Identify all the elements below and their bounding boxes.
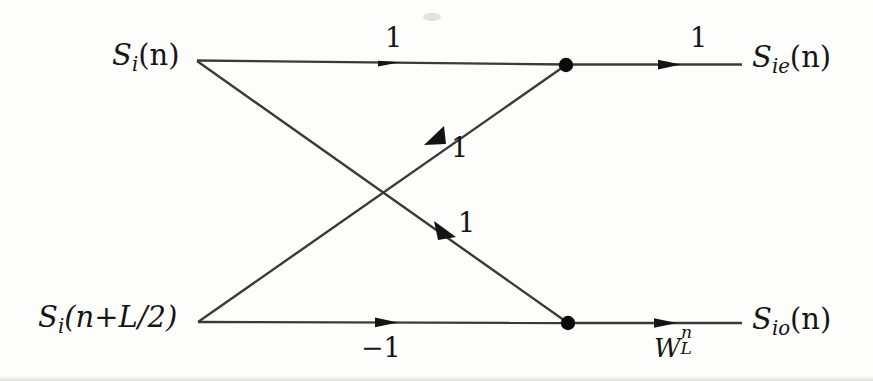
twiddle-scripts: nL (681, 331, 702, 357)
twiddle-base: W (654, 333, 681, 363)
weight-label-top-right: 1 (690, 24, 707, 51)
input-label-top-arg: (n) (138, 38, 179, 72)
output-label-bottom: Sio(n) (752, 305, 831, 338)
edge-top-node-to-top-output (566, 60, 742, 70)
input-label-bottom: Si(n+L/2) (38, 303, 177, 336)
output-label-bottom-arg: (n) (790, 302, 831, 336)
weight-label-mid-lower: 1 (458, 209, 475, 236)
output-label-top: Sie(n) (752, 43, 831, 76)
twiddle-sub: L (680, 340, 691, 357)
input-label-top-base: S (112, 38, 132, 72)
output-label-top-arg: (n) (790, 40, 831, 74)
edge-bottom-node-to-bottom-output (568, 318, 742, 328)
edge-top-input-to-top-node (197, 61, 566, 67)
weight-label-top-left: 1 (385, 24, 402, 51)
weight-label-twiddle-factor: WnL (654, 331, 702, 361)
output-label-bottom-base: S (752, 302, 772, 336)
input-label-bottom-base: S (38, 300, 58, 334)
output-label-top-sub: ie (772, 55, 790, 78)
scan-artifact (423, 13, 441, 21)
output-label-top-base: S (752, 40, 772, 74)
summing-node-bottom (561, 316, 575, 330)
output-label-bottom-sub: io (772, 317, 790, 340)
edge-bottom-input-to-bottom-node (198, 318, 568, 328)
butterfly-diagram-canvas: Si(n) Si(n+L/2) Sie(n) Sio(n) 1 1 1 1 −1… (0, 0, 873, 381)
input-label-bottom-arg: (n+L/2) (64, 300, 177, 334)
weight-label-bottom-left: −1 (361, 334, 401, 361)
input-label-top: Si(n) (112, 41, 180, 74)
summing-node-top (559, 58, 573, 72)
weight-label-mid-upper: 1 (451, 134, 468, 161)
